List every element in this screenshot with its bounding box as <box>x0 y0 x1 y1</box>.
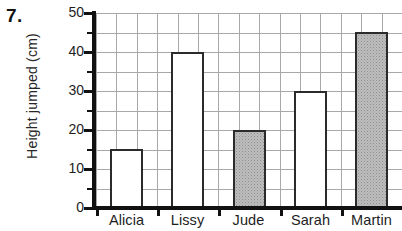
bar-sarah <box>294 91 327 208</box>
y-tick-major <box>84 12 93 15</box>
x-label-martin: Martin <box>341 210 402 230</box>
y-tick-minor <box>87 188 93 190</box>
y-tick-label: 50 <box>56 4 84 20</box>
bar-jude <box>233 130 266 208</box>
x-label-lissy: Lissy <box>157 210 218 230</box>
y-tick-label: 40 <box>56 43 84 59</box>
x-tick <box>157 206 160 216</box>
x-tick <box>280 206 283 216</box>
y-tick-major <box>84 129 93 132</box>
x-label-sarah: Sarah <box>280 210 341 230</box>
plot-area <box>96 13 402 208</box>
y-axis-tick-labels: 01020304050 <box>52 0 84 231</box>
gridline-vertical <box>341 13 342 208</box>
x-label-alicia: Alicia <box>96 210 157 230</box>
x-label-jude: Jude <box>218 210 279 230</box>
gridline-vertical <box>157 13 158 208</box>
bar-martin <box>355 32 388 208</box>
gridline-horizontal <box>96 13 402 14</box>
y-tick-major <box>84 90 93 93</box>
y-tick-major <box>84 51 93 54</box>
x-tick <box>96 206 99 216</box>
y-tick-label: 30 <box>56 82 84 98</box>
y-tick-minor <box>87 32 93 34</box>
y-tick-major <box>84 168 93 171</box>
bar-lissy <box>171 52 204 208</box>
x-tick <box>218 206 221 216</box>
x-axis-category-labels: AliciaLissyJudeSarahMartin <box>96 210 402 231</box>
x-tick <box>341 206 344 216</box>
y-tick-minor <box>87 149 93 151</box>
gridline-vertical <box>280 13 281 208</box>
y-tick-label: 20 <box>56 121 84 137</box>
y-tick-minor <box>87 71 93 73</box>
question-number: 7. <box>6 6 23 25</box>
bar-alicia <box>110 149 143 208</box>
y-tick-minor <box>87 110 93 112</box>
y-axis-title: Height jumped (cm) <box>24 6 40 186</box>
y-tick-major <box>84 207 93 210</box>
y-tick-label: 0 <box>56 199 84 215</box>
y-tick-label: 10 <box>56 160 84 176</box>
gridline-vertical <box>218 13 219 208</box>
bar-chart-figure: 7. Height jumped (cm) 01020304050 Alicia… <box>0 0 402 231</box>
gridline-vertical <box>96 13 97 208</box>
